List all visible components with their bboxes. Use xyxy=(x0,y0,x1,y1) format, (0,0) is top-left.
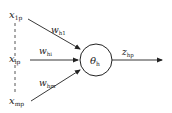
input-xmp-label: xmp xyxy=(9,95,24,108)
weight-h1-label: wh1 xyxy=(51,25,66,36)
weight-hm-label: whm xyxy=(39,78,56,89)
input-x1p-label: x1p xyxy=(9,9,22,22)
weight-hi-label: whi xyxy=(39,46,52,57)
neuron-diagram: x1p xip xmp wh1 whi whm θh zhp xyxy=(0,0,172,113)
output-zhp-label: zhp xyxy=(121,47,134,59)
